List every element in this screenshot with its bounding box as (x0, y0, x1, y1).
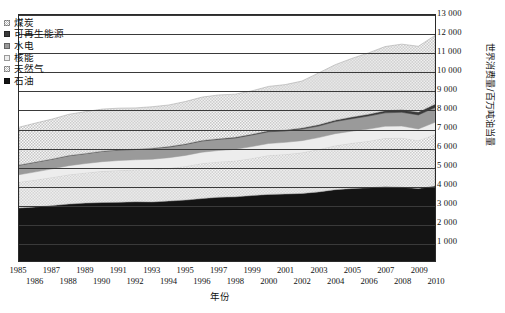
y-tick-label: 4 000 (437, 180, 477, 189)
gridline-1000 (19, 244, 435, 245)
x-tick-label: 1985 (9, 265, 26, 275)
y-tick-label: 6 000 (437, 142, 477, 151)
x-tick-label: 1989 (76, 265, 93, 275)
x-tick-label: 2002 (294, 276, 311, 286)
legend-label-gas: 天然气 (14, 64, 44, 74)
y-tick-label: 3 000 (437, 199, 477, 208)
y-axis-label-text: 世界消费量/百万吨油当量 (484, 35, 497, 155)
x-tick-label: 2006 (361, 276, 378, 286)
legend-item-renewables[interactable]: 可再生能源 (4, 29, 154, 41)
y-tick-label: 1 000 (437, 237, 477, 246)
y-tick-label: 12 000 (437, 28, 477, 37)
legend-label-oil: 石油 (14, 76, 34, 86)
legend-swatch-oil-icon (4, 78, 10, 84)
x-tick-label: 2005 (344, 265, 361, 275)
x-tick-label: 1987 (43, 265, 60, 275)
gridline-8000 (19, 110, 435, 111)
x-tick-label: 1994 (160, 276, 177, 286)
legend-swatch-hydro-icon (4, 43, 10, 49)
legend-item-oil[interactable]: 石油 (4, 75, 154, 87)
legend-swatch-nuclear-icon (4, 55, 10, 61)
legend-item-gas[interactable]: 天然气 (4, 63, 154, 75)
y-tick-label: 11 000 (437, 47, 477, 56)
legend-label-hydro: 水电 (14, 41, 34, 51)
x-tick-label: 2010 (427, 276, 444, 286)
chart-legend: 煤炭可再生能源水电核能天然气石油 (4, 17, 154, 87)
gridline-13000 (19, 15, 435, 16)
x-tick-label: 1999 (244, 265, 261, 275)
x-tick-label: 1998 (227, 276, 244, 286)
legend-swatch-coal-icon (4, 20, 10, 26)
y-tick-label: 5 000 (437, 161, 477, 170)
y-tick-label: 10 000 (437, 66, 477, 75)
legend-swatch-renewables-icon (4, 31, 10, 37)
x-tick-label: 1992 (126, 276, 143, 286)
x-tick-label: 1988 (60, 276, 77, 286)
chart-figure: 1 0002 0003 0004 0005 0006 0007 0008 000… (0, 0, 505, 313)
y-tick-label: 13 000 (437, 9, 477, 18)
x-axis: 年份 1985198619871988198919901991199219931… (0, 262, 505, 296)
gridline-2000 (19, 225, 435, 226)
x-tick-label: 1986 (26, 276, 43, 286)
legend-label-coal: 煤炭 (14, 18, 34, 28)
x-tick-label: 1995 (177, 265, 194, 275)
x-tick-label: 1997 (210, 265, 227, 275)
x-tick-label: 2008 (394, 276, 411, 286)
x-tick-label: 1996 (193, 276, 210, 286)
legend-item-coal[interactable]: 煤炭 (4, 17, 154, 29)
x-axis-label: 年份 (0, 289, 440, 303)
y-tick-label: 8 000 (437, 104, 477, 113)
x-tick-label: 2003 (310, 265, 327, 275)
legend-item-hydro[interactable]: 水电 (4, 40, 154, 52)
y-tick-label: 9 000 (437, 85, 477, 94)
legend-item-nuclear[interactable]: 核能 (4, 52, 154, 64)
x-tick-label: 1991 (110, 265, 127, 275)
legend-label-nuclear: 核能 (14, 53, 34, 63)
x-tick-label: 2007 (377, 265, 394, 275)
x-tick-label: 2009 (411, 265, 428, 275)
x-tick-label: 1990 (93, 276, 110, 286)
x-tick-label: 2004 (327, 276, 344, 286)
legend-label-renewables: 可再生能源 (14, 29, 64, 39)
gridline-6000 (19, 149, 435, 150)
x-tick-label: 2001 (277, 265, 294, 275)
y-tick-label: 7 000 (437, 123, 477, 132)
x-tick-label: 1993 (143, 265, 160, 275)
gridline-4000 (19, 187, 435, 188)
x-tick-label: 2000 (260, 276, 277, 286)
legend-swatch-gas-icon (4, 66, 10, 72)
y-tick-label: 2 000 (437, 218, 477, 227)
gridline-3000 (19, 206, 435, 207)
gridline-5000 (19, 168, 435, 169)
gridline-7000 (19, 130, 435, 131)
gridline-9000 (19, 91, 435, 92)
